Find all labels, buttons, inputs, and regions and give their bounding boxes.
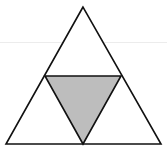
triangle-diagram <box>0 0 167 152</box>
